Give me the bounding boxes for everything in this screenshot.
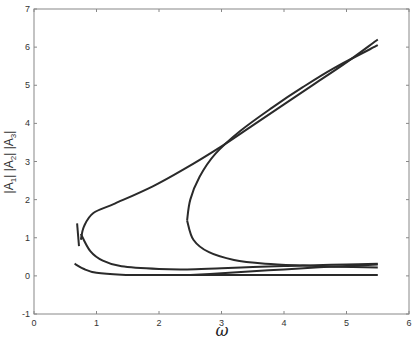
y-tick-label: 1 <box>25 233 30 243</box>
y-tick-label: -1 <box>22 309 30 319</box>
y-tick-label: 4 <box>25 118 30 128</box>
y-tick-label: 7 <box>25 4 30 14</box>
x-tick-label: 0 <box>31 318 36 328</box>
y-tick-label: 5 <box>25 80 30 90</box>
y-tick-label: 0 <box>25 271 30 281</box>
x-tick-label: 4 <box>281 318 286 328</box>
x-axis-label: ω <box>215 321 228 340</box>
y-tick-label: 3 <box>25 157 30 167</box>
y-tick-label: 2 <box>25 195 30 205</box>
y-axis-label: |A1| |A2| |A3| <box>2 131 18 194</box>
x-tick-label: 6 <box>406 318 411 328</box>
y-tick-label: 6 <box>25 42 30 52</box>
x-tick-label: 1 <box>94 318 99 328</box>
chart: 0123456 -101234567 ω |A1| |A2| |A3| <box>0 0 413 347</box>
x-tick-label: 5 <box>344 318 349 328</box>
x-tick-label: 2 <box>156 318 161 328</box>
